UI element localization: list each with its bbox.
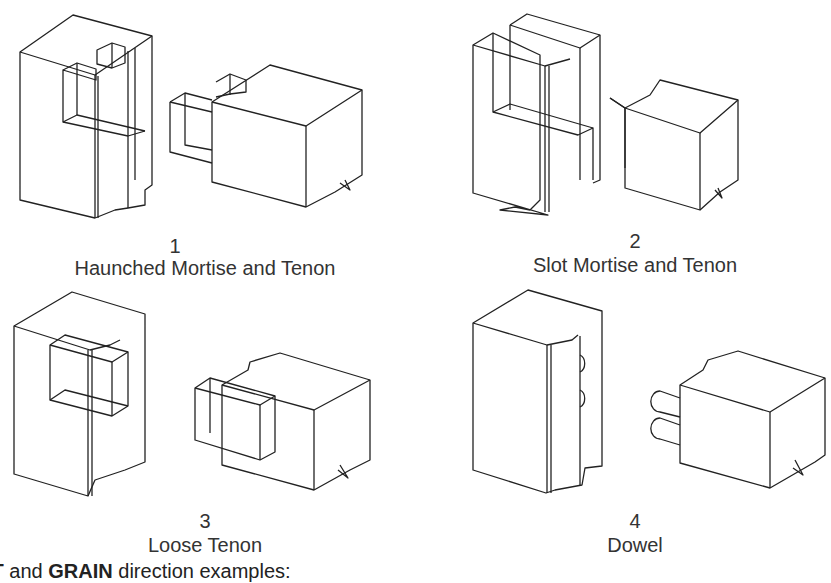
figure-4-caption: Dowel [440, 533, 830, 557]
figure-3-number: 3 [175, 510, 235, 532]
figure-2-tenon-piece [610, 80, 738, 210]
footer-text-2: direction examples: [113, 560, 291, 582]
figure-1-tenon-piece [170, 65, 362, 207]
figure-4-number: 4 [605, 510, 665, 532]
figure-2-caption: Slot Mortise and Tenon [440, 253, 830, 277]
figure-3-tenon-piece [195, 353, 370, 490]
footer-bold-2: GRAIN [48, 560, 112, 582]
figure-4-tenon-piece [651, 351, 825, 488]
figure-1-mortise-piece [20, 15, 152, 218]
figure-1-caption: Haunched Mortise and Tenon [10, 256, 400, 280]
figure-2-number: 2 [605, 230, 665, 252]
footer-text: IT and GRAIN direction examples: [0, 560, 291, 583]
figure-3-caption: Loose Tenon [10, 533, 400, 557]
footer-text-1: and [4, 560, 48, 582]
figure-2-mortise-piece [473, 14, 600, 215]
figure-1-number: 1 [145, 235, 205, 257]
figure-3-mortise-piece [14, 292, 145, 496]
figure-4-mortise-piece [473, 290, 602, 493]
